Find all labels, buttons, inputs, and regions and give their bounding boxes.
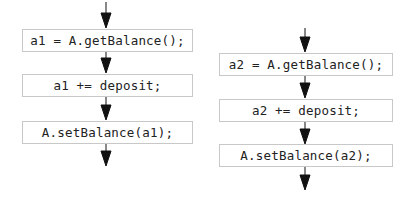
statement-box-set-balance-a2: A.setBalance(a2);: [219, 144, 393, 167]
statement-box-add-deposit-a2: a2 += deposit;: [219, 99, 393, 122]
arrow-down-icon: [300, 28, 310, 52]
statement-box-set-balance-a1: A.setBalance(a1);: [22, 121, 193, 144]
arrow-down-icon: [101, 51, 111, 73]
arrow-down-icon: [300, 75, 310, 98]
arrow-down-icon: [300, 121, 310, 144]
statement-box-get-balance-a2: a2 = A.getBalance();: [219, 53, 393, 76]
statement-box-get-balance-a1: a1 = A.getBalance();: [22, 29, 193, 52]
arrow-down-icon: [300, 167, 310, 190]
arrow-down-icon: [101, 97, 111, 120]
arrow-down-icon: [101, 143, 111, 166]
statement-box-add-deposit-a1: a1 += deposit;: [22, 74, 193, 97]
arrow-down-icon: [101, 2, 111, 28]
